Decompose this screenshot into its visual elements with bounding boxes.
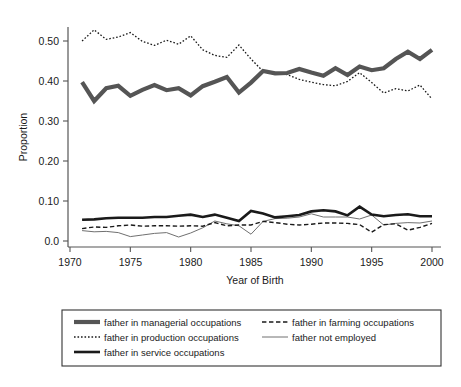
y-tick-label: 0.0 [44, 235, 59, 247]
legend-label: father in farming occupations [292, 317, 414, 328]
y-tick-label: 0.20 [39, 155, 60, 167]
x-tick-label: 1995 [360, 256, 384, 268]
y-tick-label: 0.30 [39, 115, 60, 127]
y-tick-label: 0.10 [39, 195, 60, 207]
x-tick-label: 2000 [420, 256, 444, 268]
legend-label: father in managerial occupations [104, 317, 242, 328]
chart-background [0, 0, 461, 387]
x-tick-label: 1985 [239, 256, 263, 268]
y-tick-label: 0.50 [39, 35, 60, 47]
y-tick-label: 0.40 [39, 75, 60, 87]
legend-label: father in service occupations [104, 347, 225, 358]
line-chart: 0.00.100.200.300.400.50 1970197519801985… [0, 0, 461, 387]
chart-figure: 0.00.100.200.300.400.50 1970197519801985… [0, 0, 461, 387]
x-tick-label: 1970 [58, 256, 82, 268]
legend-label: father in production occupations [104, 332, 239, 343]
x-axis-label: Year of Birth [226, 274, 284, 286]
x-tick-label: 1980 [179, 256, 203, 268]
y-axis-label: Proportion [17, 113, 29, 162]
x-tick-label: 1990 [300, 256, 324, 268]
legend-label: father not employed [292, 332, 376, 343]
x-tick-label: 1975 [119, 256, 143, 268]
